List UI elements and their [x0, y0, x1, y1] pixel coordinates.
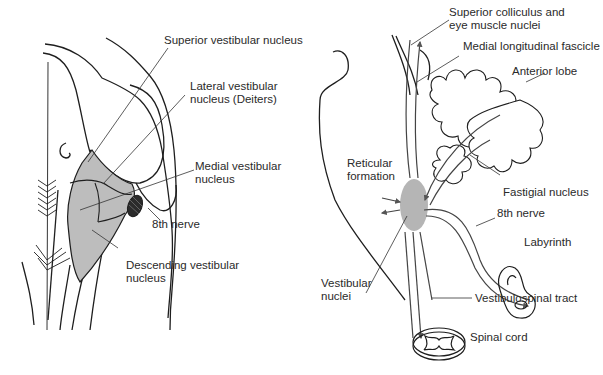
- label-superior-vestibular-nucleus: Superior vestibular nucleus: [164, 34, 303, 47]
- label-medial-longitudinal-fascicle: Medial longitudinal fascicle: [463, 40, 600, 53]
- label-eighth-nerve-right: 8th nerve: [497, 207, 545, 220]
- label-spinal-cord: Spinal cord: [470, 331, 528, 344]
- label-vestibulospinal-tract: Vestibulospinal tract: [475, 292, 577, 305]
- label-superior-colliculus: Superior colliculus and eye muscle nucle…: [449, 6, 565, 32]
- label-descending-vestibular-nucleus: Descending vestibular nucleus: [126, 259, 239, 285]
- label-labyrinth: Labyrinth: [524, 236, 571, 249]
- label-eighth-nerve-left: 8th nerve: [152, 218, 200, 231]
- label-lateral-vestibular-nucleus: Lateral vestibular nucleus (Deiters): [190, 80, 278, 106]
- spinal-fiber-marks: [34, 62, 70, 330]
- label-reticular-formation: Reticular formation: [347, 157, 395, 183]
- label-anterior-lobe: Anterior lobe: [512, 65, 577, 78]
- label-vestibular-nuclei: Vestibular nuclei: [321, 277, 372, 303]
- cerebellum-drawing: [430, 70, 543, 184]
- vestibular-nuclei-shaded: [68, 150, 135, 282]
- reticular-formation-shaded: [400, 179, 428, 231]
- label-medial-vestibular-nucleus: Medial vestibular nucleus: [195, 160, 281, 186]
- label-fastigial-nucleus: Fastigial nucleus: [503, 186, 589, 199]
